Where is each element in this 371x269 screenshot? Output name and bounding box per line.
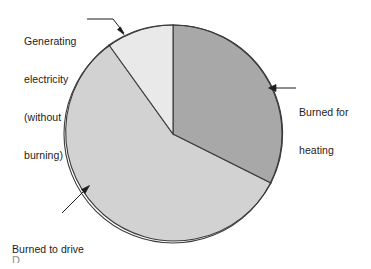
slice-label-line: Burned for — [299, 106, 349, 119]
leader-generating-electricity — [87, 19, 124, 35]
slice-label-burned-to-drive: Burned to drive engines or to generate e… — [12, 218, 101, 269]
figure-root: Generating electricity (without burning)… — [0, 0, 371, 269]
caption-fragment: D — [12, 254, 20, 263]
slice-label-generating-electricity: Generating electricity (without burning) — [24, 10, 76, 186]
slice-label-line: electricity — [24, 73, 76, 86]
slice-label-line: (without — [24, 111, 76, 124]
slice-label-line: burning) — [24, 149, 76, 162]
slice-label-burned-for-heating: Burned for heating — [299, 81, 349, 182]
slice-label-line: heating — [299, 144, 349, 157]
slice-label-line: Generating — [24, 35, 76, 48]
slice-label-line: Burned to drive — [12, 243, 101, 256]
arrowhead-generating-electricity — [118, 27, 125, 35]
